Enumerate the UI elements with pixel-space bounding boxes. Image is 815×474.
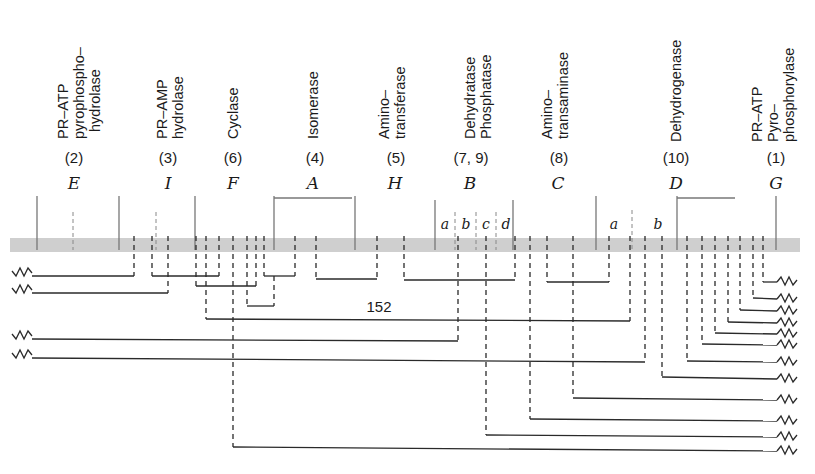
- enzyme-label-E-3: hydrolase: [87, 69, 103, 132]
- sub-B-c: c: [482, 216, 490, 232]
- gene-letters: E I F A H B C D G: [67, 173, 783, 193]
- right-zigzags: [777, 277, 797, 454]
- step-C: (8): [550, 149, 568, 166]
- chromosome-bar: [10, 238, 800, 252]
- deletions: [12, 236, 777, 451]
- enzyme-label-D: Dehydrogenase: [668, 40, 684, 142]
- enzyme-labels: PR–ATP pyrophospho– hydrolase PR–AMP hyd…: [55, 40, 797, 142]
- gene-C: C: [551, 173, 564, 193]
- step-E: (2): [65, 149, 83, 166]
- gene-D: D: [668, 173, 683, 193]
- deletion-map-diagram: PR–ATP pyrophospho– hydrolase PR–AMP hyd…: [0, 0, 815, 474]
- sub-B-d: d: [502, 216, 511, 232]
- enzyme-label-E-2: pyrophospho–: [71, 46, 87, 139]
- enzyme-label-G-2: Pyro–: [765, 103, 781, 142]
- step-H: (5): [387, 149, 405, 166]
- step-F: (6): [224, 149, 242, 166]
- enzyme-label-C-1: Amino–: [539, 89, 555, 139]
- enzyme-label-H-1: Amino–: [376, 89, 392, 139]
- gene-A: A: [305, 173, 319, 193]
- enzyme-label-I-2: hydrolase: [170, 76, 186, 139]
- sub-B-a: a: [441, 216, 449, 232]
- enzyme-label-C-2: transaminase: [555, 52, 571, 139]
- gene-F: F: [226, 173, 240, 193]
- step-numbers: (2) (3) (6) (4) (5) (7, 9) (8) (10) (1): [65, 149, 785, 166]
- sub-D-b: b: [654, 216, 663, 232]
- gene-H: H: [387, 173, 404, 193]
- step-D: (10): [663, 149, 690, 166]
- deletion-152-label: 152: [366, 298, 391, 315]
- enzyme-label-G-3: phosphorylase: [781, 48, 797, 142]
- step-A: (4): [306, 149, 324, 166]
- gene-I: I: [164, 173, 172, 193]
- enzyme-label-I-1: PR–AMP: [154, 79, 170, 139]
- sub-region-letters: a b c d a b: [441, 216, 663, 232]
- sub-D-a: a: [610, 216, 618, 232]
- enzyme-label-G-1: PR–ATP: [749, 87, 765, 142]
- step-I: (3): [159, 149, 177, 166]
- enzyme-label-F: Cyclase: [225, 87, 241, 139]
- gene-G: G: [769, 173, 783, 193]
- gene-B: B: [463, 173, 477, 193]
- enzyme-label-A: Isomerase: [305, 71, 321, 139]
- enzyme-label-B-2: Phosphatase: [478, 54, 494, 139]
- enzyme-label-E-1: PR–ATP: [55, 84, 71, 139]
- enzyme-label-H-2: transferase: [392, 66, 408, 139]
- gene-E: E: [67, 173, 81, 193]
- enzyme-label-B-1: Dehydratase: [462, 57, 478, 139]
- step-G: (1): [767, 149, 785, 166]
- sub-B-b: b: [462, 216, 471, 232]
- step-B: (7, 9): [453, 149, 488, 166]
